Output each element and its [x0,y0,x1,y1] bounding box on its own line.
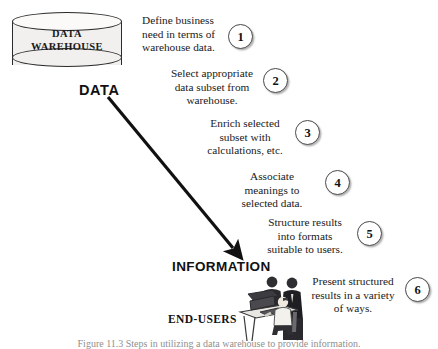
step-1-number: 1 [228,24,253,49]
step-3-text: Enrich selectedsubset withcalculations, … [193,117,297,158]
data-warehouse-cylinder: DATA WAREHOUSE [12,12,124,74]
diagram-canvas: DATA WAREHOUSE DATA INFORMATION END-USER… [0,0,438,349]
data-warehouse-label-line1: DATA [12,28,122,41]
step-6-text: Present structuredresults in a varietyof… [299,275,407,316]
step-2-number: 2 [263,68,288,93]
data-warehouse-label-line2: WAREHOUSE [12,41,122,54]
step-4-number: 4 [325,170,350,195]
step-5-text: Structure resultsinto formatssuitable to… [252,216,358,257]
step-5-number: 5 [357,221,382,246]
step-2-text: Select appropriatedata subset fromwareho… [160,67,264,108]
data-label: DATA [79,82,120,98]
end-users-label: END-USERS [168,313,237,325]
step-6-number: 6 [405,277,430,302]
figure-caption: Figure 11.3 Steps in utilizing a data wa… [0,338,438,349]
data-warehouse-label: DATA WAREHOUSE [12,28,122,53]
step-3-number: 3 [295,120,320,145]
step-4-text: Associatemeanings toselected data. [222,170,322,211]
